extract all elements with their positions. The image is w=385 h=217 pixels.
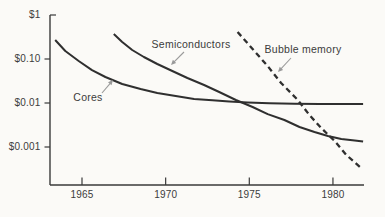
y-tick-label: $0.01 — [14, 97, 40, 108]
x-tick-label: 1975 — [238, 189, 261, 200]
x-tick-label: 1970 — [154, 189, 177, 200]
annotation-arrow-line-semiconductors — [173, 52, 184, 63]
chart-figure: $1$0.10$0.01$0.0011965197019751980CoresS… — [0, 0, 385, 217]
series-label-semiconductors: Semiconductors — [152, 38, 231, 50]
x-tick-label: 1980 — [321, 189, 344, 200]
y-tick-label: $1 — [29, 9, 41, 20]
chart-canvas: $1$0.10$0.01$0.0011965197019751980CoresS… — [0, 0, 385, 217]
series-label-bubble-memory: Bubble memory — [265, 43, 342, 55]
series-label-cores: Cores — [73, 91, 102, 103]
annotation-arrow-line-cores — [102, 82, 111, 93]
y-tick-label: $0.001 — [9, 141, 41, 152]
y-tick-label: $0.10 — [14, 53, 40, 64]
x-tick-label: 1965 — [70, 189, 93, 200]
annotation-arrow-line-bubble-memory — [280, 58, 291, 70]
